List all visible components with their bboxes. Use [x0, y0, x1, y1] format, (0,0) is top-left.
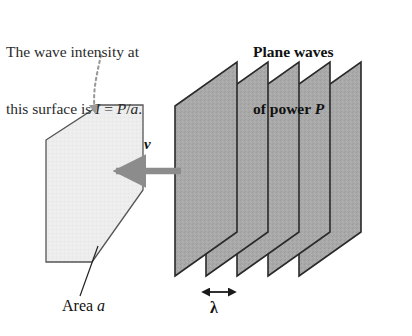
intensity-caption-line2: this surface is I = P/a. — [6, 99, 142, 118]
velocity-label: v — [144, 135, 151, 154]
symbol-power-P: P — [315, 100, 324, 117]
intensity-equals: = — [100, 100, 117, 117]
symbol-P: P — [117, 100, 126, 117]
plane-waves-caption: Plane waves of power P — [253, 4, 334, 156]
intensity-caption-line2-pre: this surface is — [6, 100, 95, 117]
plane-waves-line1: Plane waves — [253, 42, 334, 61]
intensity-period: . — [138, 100, 142, 117]
intensity-caption: The wave intensity at this surface is I … — [6, 4, 142, 156]
plane-waves-line2: of power P — [253, 99, 334, 118]
intensity-caption-line1: The wave intensity at — [6, 42, 142, 61]
area-label-text: Area — [62, 297, 97, 314]
figure-canvas: The wave intensity at this surface is I … — [0, 0, 412, 336]
wavelength-label: λ — [210, 298, 218, 317]
symbol-area-a: a — [97, 297, 105, 314]
plane-waves-line2-pre: of power — [253, 100, 315, 117]
area-label: Area a — [62, 296, 105, 315]
